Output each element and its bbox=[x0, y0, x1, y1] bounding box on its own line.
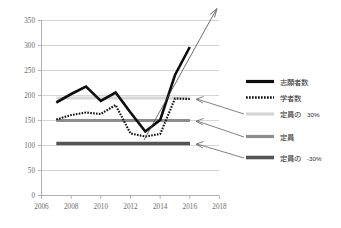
y-tick-250: 250 bbox=[24, 67, 35, 75]
legend-item-quota[interactable]: 定員 bbox=[246, 133, 295, 142]
x-tick-2008: 2008 bbox=[64, 203, 79, 211]
legend-item-enrolled[interactable]: 学者数 bbox=[246, 94, 302, 103]
legend-label-plus30: 定員の bbox=[280, 110, 301, 119]
chart-container: 350 300 250 200 150 100 50 0 2006 2008 2… bbox=[0, 0, 341, 228]
y-tick-0: 0 bbox=[31, 192, 35, 200]
chart-legend: 志願者数 学者数 定員の 30% 定員 定員の -30% bbox=[246, 78, 322, 163]
legend-label-enrolled: 学者数 bbox=[280, 94, 302, 103]
x-tick-2012: 2012 bbox=[123, 203, 138, 211]
legend-label-minus30-pct: -30% bbox=[307, 155, 322, 162]
y-axis-labels: 350 300 250 200 150 100 50 0 bbox=[24, 17, 35, 200]
line-chart: 350 300 250 200 150 100 50 0 2006 2008 2… bbox=[0, 0, 341, 228]
y-tick-150: 150 bbox=[24, 117, 35, 125]
legend-label-minus30: 定員の bbox=[280, 154, 301, 163]
x-axis-tickmarks bbox=[42, 196, 220, 200]
x-tick-2006: 2006 bbox=[34, 203, 49, 211]
legend-label-plus30-pct: 30% bbox=[307, 111, 320, 118]
x-tick-2010: 2010 bbox=[94, 203, 109, 211]
y-tick-350: 350 bbox=[24, 17, 35, 25]
legend-label-applicants: 志願者数 bbox=[280, 78, 309, 87]
x-tick-2014: 2014 bbox=[153, 203, 168, 211]
legend-label-quota: 定員 bbox=[280, 133, 295, 142]
y-tick-50: 50 bbox=[28, 167, 36, 175]
y-tick-200: 200 bbox=[24, 92, 35, 100]
x-tick-2018: 2018 bbox=[212, 203, 227, 211]
callout-arrow-minus30 bbox=[196, 142, 244, 159]
y-tick-300: 300 bbox=[24, 42, 35, 50]
x-tick-2016: 2016 bbox=[183, 203, 198, 211]
axis-lines bbox=[41, 20, 219, 196]
y-axis-tickmarks bbox=[38, 21, 42, 196]
callout-arrow-plus30 bbox=[196, 97, 244, 115]
legend-item-applicants[interactable]: 志願者数 bbox=[246, 78, 309, 87]
legend-item-plus30[interactable]: 定員の 30% bbox=[246, 110, 320, 119]
y-tick-100: 100 bbox=[24, 142, 35, 150]
x-axis-labels: 2006 2008 2010 2012 2014 2016 2018 bbox=[34, 203, 227, 211]
legend-item-minus30[interactable]: 定員の -30% bbox=[246, 154, 322, 163]
callout-arrow-quota bbox=[196, 119, 244, 138]
